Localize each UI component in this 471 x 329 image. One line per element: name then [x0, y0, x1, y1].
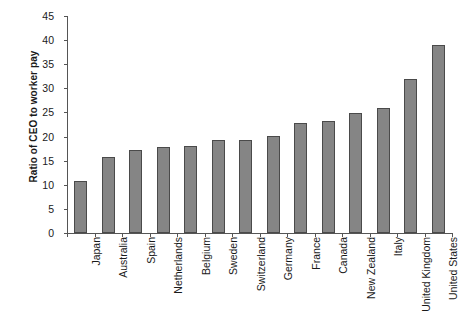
bar[interactable] [322, 121, 335, 233]
x-label-slot: Japan [67, 237, 95, 329]
x-label-slot: France [287, 237, 315, 329]
bar-slot [315, 16, 343, 233]
x-label-slot: New Zealand [342, 237, 370, 329]
x-label-slot: Italy [370, 237, 398, 329]
plot-area [67, 16, 452, 233]
bar[interactable] [184, 146, 197, 233]
bar-slot [397, 16, 425, 233]
bar-slot [260, 16, 288, 233]
x-label-slot: Canada [315, 237, 343, 329]
x-label-slot: Netherlands [150, 237, 178, 329]
bar[interactable] [377, 108, 390, 233]
x-label-slot: Spain [122, 237, 150, 329]
bar-slot [177, 16, 205, 233]
bar-slot [67, 16, 95, 233]
bar-slot [205, 16, 233, 233]
x-label-slot: Switzerland [232, 237, 260, 329]
x-label-slot: Australia [95, 237, 123, 329]
x-tick-label: United States [442, 237, 453, 300]
bar-slot [232, 16, 260, 233]
bar-slot [122, 16, 150, 233]
bar[interactable] [294, 123, 307, 233]
bar-slot [287, 16, 315, 233]
bar-slot [150, 16, 178, 233]
bar[interactable] [349, 113, 362, 233]
bar[interactable] [102, 157, 115, 233]
bar[interactable] [212, 140, 225, 233]
bar[interactable] [157, 147, 170, 233]
bar[interactable] [74, 181, 87, 233]
x-label-slot: Sweden [205, 237, 233, 329]
bar[interactable] [432, 45, 445, 233]
bar[interactable] [129, 150, 142, 233]
x-axis-tick-labels: JapanAustraliaSpainNetherlandsBelgiumSwe… [67, 237, 452, 329]
bar-chart: Ratio of CEO to worker pay 0510152025303… [0, 0, 471, 329]
bar[interactable] [404, 79, 417, 233]
bar-slot [342, 16, 370, 233]
x-label-slot: United States [425, 237, 453, 329]
bar[interactable] [267, 136, 280, 233]
x-label-slot: Germany [260, 237, 288, 329]
x-label-slot: United Kingdom [397, 237, 425, 329]
bar-slot [95, 16, 123, 233]
bar-slot [425, 16, 453, 233]
bar-slot [370, 16, 398, 233]
x-label-slot: Belgium [177, 237, 205, 329]
bar[interactable] [239, 140, 252, 233]
